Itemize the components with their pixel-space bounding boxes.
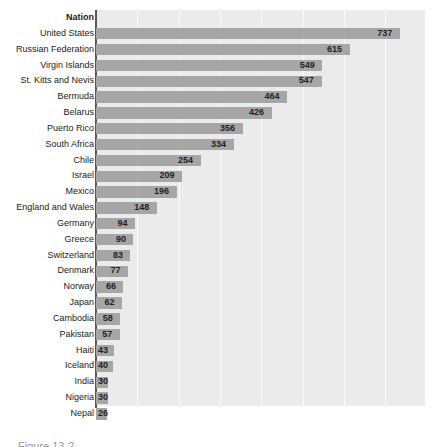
bar-value-label: 30 bbox=[98, 390, 108, 406]
chart-row: Belarus426 bbox=[0, 105, 434, 121]
chart-row: Israel209 bbox=[0, 168, 434, 184]
bar-category-label: Russian Federation bbox=[0, 42, 94, 58]
bar-value-label: 90 bbox=[116, 232, 126, 248]
chart-row: Iceland40 bbox=[0, 358, 434, 374]
bar-category-label: Cambodia bbox=[0, 311, 94, 327]
bar-category-label: South Africa bbox=[0, 137, 94, 153]
bar-value-label: 83 bbox=[113, 248, 123, 264]
bar bbox=[96, 234, 133, 245]
chart-row: Switzerland83 bbox=[0, 248, 434, 264]
chart-row: Norway66 bbox=[0, 279, 434, 295]
bar-value-label: 58 bbox=[103, 311, 113, 327]
chart-row: Cambodia58 bbox=[0, 311, 434, 327]
bar-category-label: Pakistan bbox=[0, 327, 94, 343]
bar-value-label: 464 bbox=[265, 89, 280, 105]
chart-row: Nepal26 bbox=[0, 406, 434, 422]
bar-category-label: Norway bbox=[0, 279, 94, 295]
bar-value-label: 148 bbox=[134, 200, 149, 216]
column-header-nation: Nation bbox=[0, 10, 94, 26]
bar-value-label: 57 bbox=[102, 327, 112, 343]
bar-value-label: 356 bbox=[220, 121, 235, 137]
bar-value-label: 196 bbox=[154, 184, 169, 200]
bar-category-label: Belarus bbox=[0, 105, 94, 121]
bar-category-label: England and Wales bbox=[0, 200, 94, 216]
chart-row: India30 bbox=[0, 374, 434, 390]
bar-value-label: 737 bbox=[377, 26, 392, 42]
chart-row: South Africa334 bbox=[0, 137, 434, 153]
chart-row: Denmark77 bbox=[0, 263, 434, 279]
bar-category-label: Nepal bbox=[0, 406, 94, 422]
bar bbox=[96, 60, 322, 71]
bar-value-label: 30 bbox=[98, 374, 108, 390]
chart-row: Haiti43 bbox=[0, 343, 434, 359]
bar-category-label: Mexico bbox=[0, 184, 94, 200]
chart-row: Greece90 bbox=[0, 232, 434, 248]
chart-row: St. Kitts and Nevis547 bbox=[0, 73, 434, 89]
chart-row: Chile254 bbox=[0, 153, 434, 169]
bar-category-label: Chile bbox=[0, 153, 94, 169]
bar-category-label: Japan bbox=[0, 295, 94, 311]
bar bbox=[96, 44, 350, 55]
bar bbox=[96, 107, 272, 118]
bar-category-label: Nigeria bbox=[0, 390, 94, 406]
bar-category-label: United States bbox=[0, 26, 94, 42]
chart-row: England and Wales148 bbox=[0, 200, 434, 216]
bar bbox=[96, 91, 287, 102]
bar-category-label: Haiti bbox=[0, 343, 94, 359]
bar-category-label: Puerto Rico bbox=[0, 121, 94, 137]
bar bbox=[96, 28, 400, 39]
bar-value-label: 40 bbox=[98, 358, 108, 374]
bar-value-label: 254 bbox=[178, 153, 193, 169]
bar-category-label: Virgin Islands bbox=[0, 58, 94, 74]
bar-category-label: Germany bbox=[0, 216, 94, 232]
chart-row: Japan62 bbox=[0, 295, 434, 311]
bar bbox=[96, 218, 135, 229]
chart-row: Nigeria30 bbox=[0, 390, 434, 406]
figure-caption: Figure 13-2 bbox=[18, 440, 74, 447]
bar-value-label: 615 bbox=[327, 42, 342, 58]
chart-row: Pakistan57 bbox=[0, 327, 434, 343]
bar-value-label: 94 bbox=[118, 216, 128, 232]
bar-category-label: Bermuda bbox=[0, 89, 94, 105]
bar-category-label: St. Kitts and Nevis bbox=[0, 73, 94, 89]
chart-row: Germany94 bbox=[0, 216, 434, 232]
chart-row: Virgin Islands549 bbox=[0, 58, 434, 74]
bar bbox=[96, 76, 322, 87]
chart-header-row: Nation bbox=[0, 10, 434, 26]
bar-category-label: India bbox=[0, 374, 94, 390]
bar-value-label: 77 bbox=[111, 263, 121, 279]
chart-row: United States737 bbox=[0, 26, 434, 42]
bar-category-label: Iceland bbox=[0, 358, 94, 374]
bar-value-label: 209 bbox=[159, 168, 174, 184]
bar-category-label: Israel bbox=[0, 168, 94, 184]
bar-category-label: Greece bbox=[0, 232, 94, 248]
chart-row: Mexico196 bbox=[0, 184, 434, 200]
bar-value-label: 334 bbox=[211, 137, 226, 153]
bar-category-label: Denmark bbox=[0, 263, 94, 279]
bar-value-label: 66 bbox=[106, 279, 116, 295]
chart-row: Bermuda464 bbox=[0, 89, 434, 105]
bar-value-label: 43 bbox=[98, 343, 108, 359]
bar-value-label: 426 bbox=[249, 105, 264, 121]
bar-value-label: 549 bbox=[300, 58, 315, 74]
chart-row: Russian Federation615 bbox=[0, 42, 434, 58]
bar-value-label: 62 bbox=[104, 295, 114, 311]
bar-chart: NationUnited States737Russian Federation… bbox=[0, 0, 434, 447]
chart-row: Puerto Rico356 bbox=[0, 121, 434, 137]
bar-value-label: 547 bbox=[299, 73, 314, 89]
bar-value-label: 26 bbox=[98, 406, 108, 422]
bar-category-label: Switzerland bbox=[0, 248, 94, 264]
